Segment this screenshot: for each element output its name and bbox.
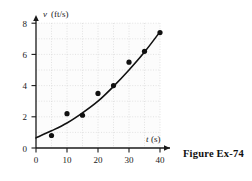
data-point (126, 60, 131, 65)
data-point (111, 83, 116, 88)
data-point (95, 91, 100, 96)
y-axis-unit: (ft/s) (51, 9, 69, 19)
x-axis-arrowhead (164, 145, 170, 151)
x-tick-label-10: 10 (63, 155, 73, 165)
x-tick-label-20: 20 (94, 155, 104, 165)
data-point (157, 30, 162, 35)
data-point (64, 111, 69, 116)
data-point (49, 133, 54, 138)
data-point (80, 113, 85, 118)
y-axis-ticks (32, 23, 37, 148)
x-axis-unit: (s) (151, 134, 161, 144)
y-axis-label: v (43, 9, 47, 19)
y-tick-label-6: 6 (23, 50, 28, 60)
x-axis-ticks (36, 148, 160, 153)
x-tick-label-0: 0 (34, 155, 39, 165)
figure-caption: Figure Ex-74 (183, 148, 244, 159)
y-tick-label-2: 2 (23, 112, 28, 122)
y-tick-label-0: 0 (23, 144, 28, 154)
y-axis-arrowhead (33, 15, 39, 21)
y-tick-label-4: 4 (23, 81, 28, 91)
x-tick-label-40: 40 (156, 155, 166, 165)
figure-container: 0 10 20 30 40 0 2 4 6 8 v (ft/s) t (s) F… (0, 0, 252, 181)
x-tick-label-30: 30 (125, 155, 135, 165)
data-point (142, 49, 147, 54)
y-tick-label-8: 8 (23, 19, 28, 29)
